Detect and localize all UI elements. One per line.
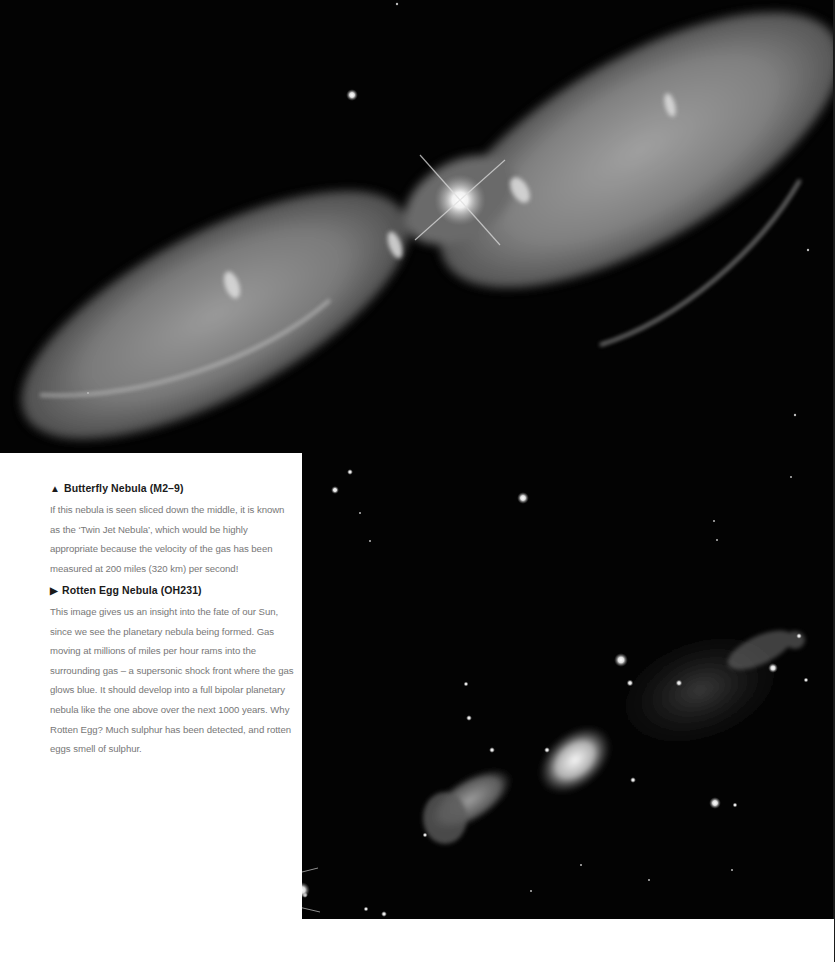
caption-rotten-egg-nebula: ▶Rotten Egg Nebula (OH231) This image gi… [50, 583, 295, 759]
caption-title-text: Butterfly Nebula (M2–9) [64, 482, 184, 494]
caption-body: This image gives us an insight into the … [50, 602, 295, 759]
triangle-right-icon: ▶ [50, 585, 58, 596]
page-edge-rule [833, 0, 835, 962]
caption-butterfly-nebula: ▲Butterfly Nebula (M2–9) If this nebula … [50, 481, 295, 578]
caption-title-text: Rotten Egg Nebula (OH231) [62, 584, 202, 596]
caption-body: If this nebula is seen sliced down the m… [50, 500, 295, 578]
caption-panel: ▲Butterfly Nebula (M2–9) If this nebula … [0, 453, 302, 962]
triangle-up-icon: ▲ [50, 483, 60, 494]
caption-title: ▲Butterfly Nebula (M2–9) [50, 481, 295, 496]
caption-title: ▶Rotten Egg Nebula (OH231) [50, 583, 295, 598]
